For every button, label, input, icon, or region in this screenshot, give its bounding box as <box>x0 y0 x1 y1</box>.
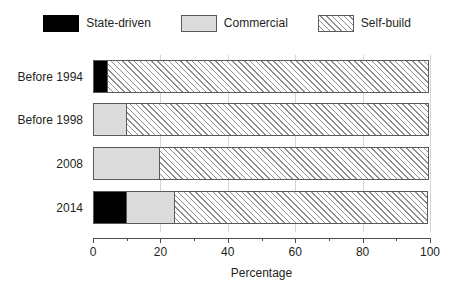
axis-tick-major <box>228 238 229 243</box>
x-axis: 020406080100 <box>93 238 430 239</box>
legend-swatch-black-icon <box>43 15 79 32</box>
stacked-bar <box>93 147 430 180</box>
chart-legend: State-drivenCommercialSelf-build <box>0 10 454 36</box>
bar-segment <box>93 147 160 180</box>
axis-tick-label: 100 <box>420 246 440 258</box>
axis-tick-label: 40 <box>221 246 234 258</box>
bar-segment <box>93 191 127 224</box>
axis-tick-major <box>160 238 161 243</box>
legend-item: State-driven <box>43 15 151 32</box>
category-label: 2008 <box>56 158 83 170</box>
axis-tick-label: 60 <box>289 246 302 258</box>
stacked-bar <box>93 60 430 93</box>
axis-tick-minor <box>262 238 263 241</box>
category-label: Before 1994 <box>18 71 83 83</box>
axis-tick-minor <box>194 238 195 241</box>
legend-item-label: Self-build <box>361 17 411 29</box>
axis-tick-label: 80 <box>356 246 369 258</box>
stacked-bar <box>93 191 430 224</box>
bar-segment <box>93 60 108 93</box>
bar-segment <box>126 191 175 224</box>
axis-tick-label: 0 <box>90 246 97 258</box>
legend-item-label: State-driven <box>86 17 151 29</box>
bar-segment <box>107 60 429 93</box>
stacked-bar <box>93 103 430 136</box>
bar-segment <box>93 103 127 136</box>
axis-tick-major <box>430 238 431 243</box>
bar-segment <box>126 103 429 136</box>
axis-tick-major <box>295 238 296 243</box>
axis-tick-minor <box>329 238 330 241</box>
axis-tick-major <box>93 238 94 243</box>
category-label: Before 1998 <box>18 114 83 126</box>
plot-area: Before 1994Before 199820082014 <box>93 55 430 232</box>
legend-item: Commercial <box>181 15 288 32</box>
bar-row: 2008 <box>93 147 430 180</box>
category-label: 2014 <box>56 202 83 214</box>
stacked-bar-chart: State-drivenCommercialSelf-build Before … <box>0 0 454 291</box>
legend-swatch-gray-icon <box>181 15 217 32</box>
axis-tick-major <box>363 238 364 243</box>
axis-tick-minor <box>396 238 397 241</box>
bar-segment <box>174 191 428 224</box>
bar-segment <box>159 147 429 180</box>
x-axis-title: Percentage <box>93 267 430 279</box>
bar-row: Before 1998 <box>93 103 430 136</box>
axis-tick-label: 20 <box>154 246 167 258</box>
gridline <box>430 55 431 232</box>
legend-item: Self-build <box>318 15 411 32</box>
legend-swatch-hatched-icon <box>318 15 354 32</box>
bar-row: Before 1994 <box>93 60 430 93</box>
legend-item-label: Commercial <box>224 17 288 29</box>
bar-row: 2014 <box>93 191 430 224</box>
axis-tick-minor <box>127 238 128 241</box>
